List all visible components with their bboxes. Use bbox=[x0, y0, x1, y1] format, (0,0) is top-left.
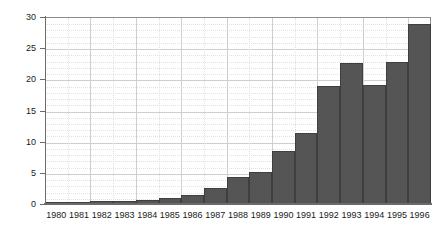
y-axis-tick-mark bbox=[40, 204, 45, 205]
x-axis-tick-label: 1995 bbox=[386, 209, 409, 221]
bar bbox=[204, 188, 227, 204]
x-axis-line bbox=[44, 203, 432, 205]
bar bbox=[249, 172, 272, 204]
x-axis-tick-label: 1989 bbox=[249, 209, 272, 221]
y-axis-tick-label: 10 bbox=[0, 138, 36, 147]
x-axis-tick-labels: 1980198119821983198419851986198719881989… bbox=[45, 209, 431, 227]
y-axis-tick-label: 0 bbox=[0, 200, 36, 209]
bar bbox=[408, 24, 431, 204]
y-axis-tick-label: 15 bbox=[0, 107, 36, 116]
x-axis-tick-label: 1991 bbox=[295, 209, 318, 221]
bar bbox=[340, 63, 363, 204]
bar-chart-figure: 051015202530 198019811982198319841985198… bbox=[0, 0, 446, 235]
x-axis-tick-label: 1981 bbox=[68, 209, 91, 221]
x-axis-tick-label: 1994 bbox=[363, 209, 386, 221]
x-axis-tick-label: 1990 bbox=[272, 209, 295, 221]
bar bbox=[272, 151, 295, 204]
bar bbox=[227, 177, 249, 204]
x-axis-tick-label: 1988 bbox=[227, 209, 250, 221]
y-axis-line bbox=[45, 16, 46, 205]
y-axis-tick-label: 20 bbox=[0, 75, 36, 84]
x-axis-tick-label: 1993 bbox=[340, 209, 363, 221]
x-axis-tick-label: 1983 bbox=[113, 209, 136, 221]
y-axis-tick-label: 5 bbox=[0, 169, 36, 178]
y-axis-tick-labels: 051015202530 bbox=[0, 17, 45, 204]
x-axis-tick-label: 1992 bbox=[317, 209, 340, 221]
bar bbox=[386, 62, 408, 204]
x-axis-tick-label: 1984 bbox=[136, 209, 159, 221]
x-axis-tick-label: 1982 bbox=[90, 209, 113, 221]
bar bbox=[317, 86, 340, 204]
x-axis-tick-label: 1986 bbox=[181, 209, 204, 221]
x-axis-tick-label: 1985 bbox=[159, 209, 182, 221]
bars-layer bbox=[45, 18, 430, 204]
x-axis-tick-label: 1987 bbox=[204, 209, 227, 221]
y-axis-tick-label: 30 bbox=[0, 13, 36, 22]
x-axis-tick-label: 1996 bbox=[408, 209, 431, 221]
x-axis-tick-label: 1980 bbox=[45, 209, 68, 221]
plot-area bbox=[45, 17, 431, 204]
bar bbox=[363, 85, 386, 204]
y-axis-tick-label: 25 bbox=[0, 44, 36, 53]
bar bbox=[295, 133, 317, 204]
